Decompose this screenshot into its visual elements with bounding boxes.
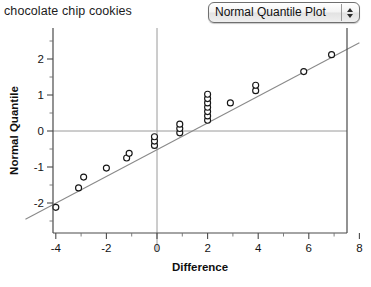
x-tick-label: 8 bbox=[356, 242, 362, 254]
data-point bbox=[76, 185, 82, 191]
data-point bbox=[329, 52, 335, 58]
data-point bbox=[301, 69, 307, 75]
axis-tick-labels: -4-202468-2-1012 bbox=[34, 53, 363, 254]
data-point bbox=[227, 100, 233, 106]
y-tick-label: -2 bbox=[34, 197, 44, 209]
y-tick-label: -1 bbox=[34, 161, 44, 173]
normal-quantile-plot-app: chocolate chip cookies Normal Quantile P… bbox=[0, 0, 371, 287]
x-axis-title: Difference bbox=[172, 261, 228, 273]
scatter-chart: -4-202468-2-1012 Difference Normal Quant… bbox=[0, 0, 371, 287]
x-tick-label: 4 bbox=[255, 242, 262, 254]
y-tick-label: 0 bbox=[38, 125, 44, 137]
x-tick-label: -2 bbox=[101, 242, 111, 254]
data-point bbox=[253, 82, 259, 88]
data-point bbox=[81, 174, 87, 180]
y-tick-label: 2 bbox=[38, 53, 44, 65]
y-axis-title: Normal Quantile bbox=[8, 86, 20, 175]
chart-zero-lines bbox=[53, 28, 347, 251]
data-point bbox=[103, 165, 109, 171]
data-point bbox=[126, 150, 132, 156]
axes-group bbox=[47, 28, 359, 239]
data-point bbox=[53, 204, 59, 210]
data-point bbox=[177, 121, 183, 127]
y-tick-label: 1 bbox=[38, 89, 44, 101]
data-point bbox=[205, 91, 211, 97]
x-tick-label: 2 bbox=[204, 242, 210, 254]
x-tick-label: -4 bbox=[51, 242, 62, 254]
x-tick-label: 0 bbox=[154, 242, 160, 254]
data-point bbox=[151, 134, 157, 140]
x-tick-label: 6 bbox=[306, 242, 312, 254]
